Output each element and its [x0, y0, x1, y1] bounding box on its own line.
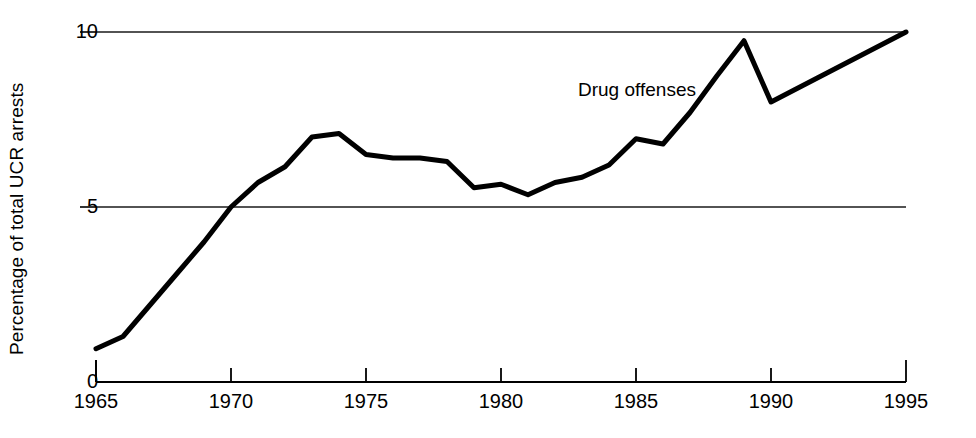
x-tick-label-1965: 1965: [56, 390, 136, 413]
data-series-group: [96, 32, 906, 349]
y-tick-label-10: 10: [52, 20, 98, 43]
x-tick-mark-group: [96, 360, 906, 382]
gridline-group: [96, 32, 906, 207]
x-tick-label-1985: 1985: [596, 390, 676, 413]
chart-plot-area: [0, 0, 976, 438]
data-line-drug-offenses: [96, 32, 906, 349]
y-tick-label-5: 5: [52, 195, 98, 218]
x-tick-label-1995: 1995: [866, 390, 946, 413]
x-tick-label-1980: 1980: [461, 390, 541, 413]
x-tick-label-1975: 1975: [326, 390, 406, 413]
y-axis-title: Percentage of total UCR arrests: [6, 0, 40, 355]
series-annotation-drug-offenses: Drug offenses: [578, 79, 696, 101]
x-tick-label-1990: 1990: [731, 390, 811, 413]
chart-container: Percentage of total UCR arrests 10 5 0 1…: [0, 0, 976, 438]
x-tick-label-1970: 1970: [191, 390, 271, 413]
